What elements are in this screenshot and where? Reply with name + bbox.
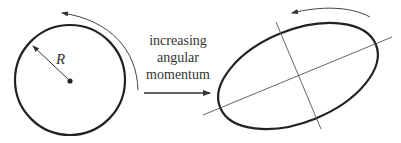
caption-line-3: momentum	[146, 67, 210, 82]
ellipse-outline	[203, 2, 393, 143]
major-axis-line	[203, 37, 392, 115]
radius-label: R	[55, 51, 65, 67]
caption-line-2: angular	[157, 50, 199, 65]
rotation-arrow-right	[292, 8, 370, 17]
diagram-canvas: R increasing angular momentum	[0, 0, 401, 143]
rigid-circle: R	[15, 13, 138, 135]
caption-line-1: increasing	[149, 33, 207, 48]
transition-caption: increasing angular momentum	[144, 33, 210, 93]
minor-axis-line	[276, 22, 321, 129]
deformed-ellipse	[203, 2, 393, 143]
